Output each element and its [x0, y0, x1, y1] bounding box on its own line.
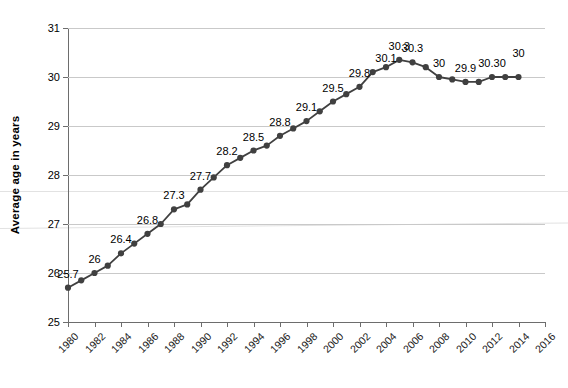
y-tick-label: 29	[48, 120, 60, 132]
data-point-marker[interactable]	[290, 125, 296, 131]
data-point-label: 30	[512, 47, 524, 59]
data-point-marker[interactable]	[515, 74, 521, 80]
data-point-marker[interactable]	[91, 270, 97, 276]
x-tick-label: 1988	[161, 330, 186, 355]
x-tick-mark	[360, 322, 361, 327]
data-point-marker[interactable]	[383, 64, 389, 70]
data-point-label: 26	[88, 253, 100, 265]
data-point-label: 29.8	[349, 67, 370, 79]
data-point-marker[interactable]	[197, 187, 203, 193]
y-tick-label: 31	[48, 22, 60, 34]
data-point-marker[interactable]	[211, 174, 217, 180]
x-tick-mark	[254, 322, 255, 327]
data-point-marker[interactable]	[423, 64, 429, 70]
x-tick-label: 1996	[267, 330, 292, 355]
x-tick-label: 1984	[108, 330, 133, 355]
data-point-marker[interactable]	[303, 118, 309, 124]
data-point-marker[interactable]	[118, 250, 124, 256]
series-polyline	[68, 60, 519, 288]
data-point-marker[interactable]	[264, 143, 270, 149]
data-point-marker[interactable]	[396, 57, 402, 63]
data-point-marker[interactable]	[370, 69, 376, 75]
x-tick-label: 1980	[55, 330, 80, 355]
x-tick-label: 2006	[400, 330, 425, 355]
data-point-label: 29.9	[455, 62, 476, 74]
x-tick-label: 2010	[453, 330, 478, 355]
x-tick-label: 1992	[214, 330, 239, 355]
data-point-marker[interactable]	[476, 79, 482, 85]
x-tick-label: 2012	[479, 330, 504, 355]
x-tick-label: 1990	[188, 330, 213, 355]
data-point-label: 28.8	[269, 116, 290, 128]
data-point-marker[interactable]	[237, 155, 243, 161]
data-point-marker[interactable]	[330, 98, 336, 104]
data-point-marker[interactable]	[250, 147, 256, 153]
x-tick-label: 1998	[294, 330, 319, 355]
data-point-marker[interactable]	[409, 59, 415, 65]
x-tick-label: 2002	[347, 330, 372, 355]
x-tick-mark	[174, 322, 175, 327]
y-axis-title: Average age in years	[6, 28, 24, 322]
x-tick-label: 1986	[135, 330, 160, 355]
data-point-marker[interactable]	[78, 277, 84, 283]
x-tick-mark	[227, 322, 228, 327]
data-point-marker[interactable]	[356, 84, 362, 90]
data-point-label: 30.30	[478, 57, 506, 69]
data-point-marker[interactable]	[449, 76, 455, 82]
data-point-marker[interactable]	[489, 74, 495, 80]
data-point-marker[interactable]	[131, 241, 137, 247]
data-point-label: 26.8	[137, 214, 158, 226]
x-tick-label: 1994	[241, 330, 266, 355]
data-point-label: 30	[433, 57, 445, 69]
x-tick-mark	[307, 322, 308, 327]
x-tick-mark	[545, 322, 546, 327]
data-point-label: 27.7	[190, 170, 211, 182]
x-tick-label: 2004	[373, 330, 398, 355]
data-point-marker[interactable]	[224, 162, 230, 168]
data-point-marker[interactable]	[144, 231, 150, 237]
data-point-label: 30.1	[375, 52, 396, 64]
y-tick-label: 28	[48, 169, 60, 181]
data-point-label: 29.5	[322, 82, 343, 94]
x-tick-label: 2008	[426, 330, 451, 355]
x-tick-label: 2014	[506, 330, 531, 355]
data-point-marker[interactable]	[184, 201, 190, 207]
x-tick-mark	[148, 322, 149, 327]
x-tick-label: 1982	[82, 330, 107, 355]
plot-area: 25262728293031 1980198219841986198819901…	[68, 28, 545, 322]
x-tick-mark	[201, 322, 202, 327]
data-point-marker[interactable]	[171, 206, 177, 212]
data-point-marker[interactable]	[462, 79, 468, 85]
data-point-label: 29.1	[296, 101, 317, 113]
data-point-marker[interactable]	[65, 285, 71, 291]
data-point-label: 28.2	[216, 145, 237, 157]
x-tick-mark	[466, 322, 467, 327]
data-point-marker[interactable]	[317, 108, 323, 114]
y-tick-label: 30	[48, 71, 60, 83]
data-point-label: 25.7	[57, 268, 78, 280]
data-point-marker[interactable]	[502, 74, 508, 80]
x-tick-mark	[280, 322, 281, 327]
x-tick-mark	[121, 322, 122, 327]
x-tick-label: 2016	[532, 330, 557, 355]
y-axis-title-text: Average age in years	[9, 116, 21, 235]
data-point-label: 26.4	[110, 233, 131, 245]
chart-canvas: Average age in years 25262728293031 1980…	[0, 0, 568, 388]
x-tick-mark	[386, 322, 387, 327]
x-tick-mark	[413, 322, 414, 327]
data-point-marker[interactable]	[158, 221, 164, 227]
x-tick-mark	[492, 322, 493, 327]
data-point-marker[interactable]	[105, 263, 111, 269]
data-point-label: 30.3	[402, 42, 423, 54]
x-tick-mark	[95, 322, 96, 327]
x-tick-mark	[519, 322, 520, 327]
data-point-label: 27.3	[163, 189, 184, 201]
y-tick-label: 25	[48, 316, 60, 328]
y-tick-label: 27	[48, 218, 60, 230]
x-tick-label: 2000	[320, 330, 345, 355]
x-tick-mark	[333, 322, 334, 327]
x-tick-mark	[439, 322, 440, 327]
data-point-marker[interactable]	[436, 74, 442, 80]
data-point-marker[interactable]	[277, 133, 283, 139]
data-point-marker[interactable]	[343, 91, 349, 97]
